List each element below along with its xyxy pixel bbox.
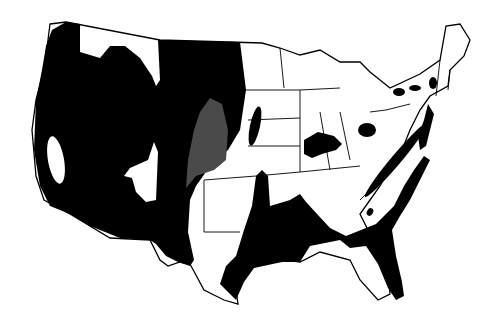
map-svg — [0, 0, 504, 326]
region-blob-sc — [365, 207, 374, 217]
region-blob-ny-1 — [393, 88, 405, 96]
region-blob-ohio — [358, 123, 376, 137]
region-blob-vt — [429, 77, 437, 89]
us-map — [0, 0, 504, 326]
region-blob-ny-2 — [409, 85, 421, 91]
